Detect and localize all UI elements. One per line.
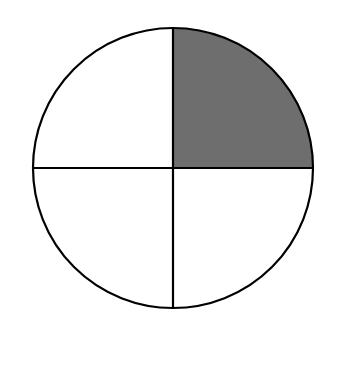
shaded-quadrant-top-right xyxy=(173,28,313,168)
fraction-circle-diagram xyxy=(0,0,337,381)
